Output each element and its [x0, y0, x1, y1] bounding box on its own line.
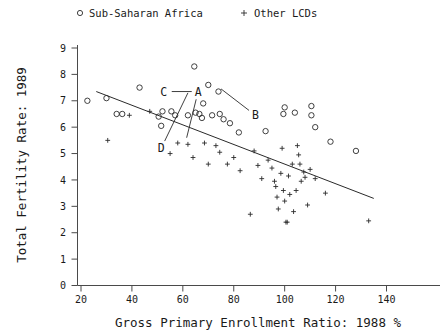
data-point-plus [272, 179, 277, 184]
legend-label-other-lcds: Other LCDs [254, 7, 317, 19]
data-point-plus [175, 141, 180, 146]
data-point-plus [305, 203, 310, 208]
data-point-circle [217, 111, 222, 116]
data-point-plus [217, 150, 222, 155]
data-point-plus [280, 146, 285, 151]
data-point-plus [206, 162, 211, 167]
data-point-circle [313, 124, 318, 129]
chart-container: Sub-Saharan Africa Other LCDs 0123456789… [0, 0, 445, 336]
y-tick-label: 8 [60, 69, 66, 80]
annotations: ABCD [158, 85, 259, 156]
data-point-plus [127, 113, 132, 118]
data-point-plus [303, 175, 308, 180]
data-point-circle [236, 130, 241, 135]
y-tick-label: 3 [60, 201, 66, 212]
data-point-plus [191, 155, 196, 160]
data-point-plus [186, 142, 191, 147]
data-point-circle [137, 85, 142, 90]
data-point-circle [120, 111, 125, 116]
y-tick-label: 9 [60, 43, 66, 54]
data-point-plus [256, 163, 261, 168]
data-point-plus [276, 207, 281, 212]
data-point-plus [287, 192, 292, 197]
data-point-plus [168, 151, 173, 156]
x-axis-ticks: 20406080100120140 [75, 286, 396, 306]
data-point-circle [292, 110, 297, 115]
x-tick-label: 40 [126, 294, 138, 305]
data-point-circle [114, 111, 119, 116]
y-tick-label: 4 [60, 175, 66, 186]
data-point-circle [192, 64, 197, 69]
data-point-plus [308, 167, 313, 172]
data-point-plus [366, 218, 371, 223]
scatter-plot: Sub-Saharan Africa Other LCDs 0123456789… [0, 0, 445, 336]
data-point-circle [328, 139, 333, 144]
annotation-leader-line [221, 89, 249, 111]
data-point-circle [158, 123, 163, 128]
data-point-circle [221, 117, 226, 122]
plus-marker-icon [241, 10, 247, 16]
y-axis-ticks: 0123456789 [60, 43, 78, 292]
data-point-plus [291, 209, 296, 214]
data-point-circle [309, 103, 314, 108]
data-point-plus [278, 171, 283, 176]
x-tick-label: 100 [276, 294, 294, 305]
data-point-plus [298, 162, 303, 167]
data-point-plus [231, 155, 236, 160]
data-point-plus [290, 162, 295, 167]
data-point-plus [294, 188, 299, 193]
data-point-circle [199, 115, 204, 120]
annotation-label-a: A [195, 85, 202, 99]
y-tick-label: 5 [60, 148, 66, 159]
circle-marker-icon [77, 10, 82, 15]
data-point-plus [296, 152, 301, 157]
data-point-plus [105, 138, 110, 143]
data-point-plus [299, 179, 304, 184]
data-point-circle [206, 82, 211, 87]
data-point-circle [353, 148, 358, 153]
data-point-circle [185, 113, 190, 118]
data-point-circle [216, 89, 221, 94]
annotation-label-d: D [158, 141, 165, 155]
y-axis-title: Total Fertility Rate: 1989 [14, 67, 29, 263]
annotation-label-b: B [252, 108, 259, 122]
legend-label-sub-saharan-africa: Sub-Saharan Africa [89, 7, 203, 19]
data-point-circle [282, 105, 287, 110]
series-other-lcds-points [105, 109, 371, 225]
data-point-plus [248, 212, 253, 217]
x-tick-label: 20 [75, 294, 87, 305]
x-tick-label: 140 [377, 294, 395, 305]
data-point-circle [263, 128, 268, 133]
data-point-plus [225, 162, 230, 167]
data-point-plus [323, 191, 328, 196]
data-point-circle [160, 109, 165, 114]
data-point-circle [209, 113, 214, 118]
data-point-plus [295, 143, 300, 148]
data-point-plus [238, 168, 243, 173]
annotation-leader-line [187, 99, 197, 137]
data-point-plus [270, 166, 275, 171]
y-tick-label: 2 [60, 227, 66, 238]
x-tick-label: 80 [228, 294, 240, 305]
y-tick-label: 0 [60, 280, 66, 291]
data-point-plus [286, 174, 291, 179]
data-point-circle [85, 98, 90, 103]
data-point-circle [227, 121, 232, 126]
data-point-plus [202, 141, 207, 146]
data-point-plus [275, 195, 280, 200]
data-point-plus [273, 184, 278, 189]
x-tick-label: 120 [327, 294, 345, 305]
x-axis-title: Gross Primary Enrollment Ratio: 1988 % [115, 315, 401, 330]
data-point-plus [282, 199, 287, 204]
data-point-circle [281, 111, 286, 116]
data-point-plus [214, 143, 219, 148]
annotation-leader-line [165, 93, 188, 141]
data-point-plus [281, 188, 286, 193]
annotation-label-c: C [160, 85, 167, 99]
data-point-circle [201, 101, 206, 106]
legend: Sub-Saharan Africa Other LCDs [77, 7, 317, 19]
y-tick-label: 1 [60, 254, 66, 265]
x-tick-label: 60 [177, 294, 189, 305]
data-point-plus [259, 176, 264, 181]
data-point-circle [309, 113, 314, 118]
